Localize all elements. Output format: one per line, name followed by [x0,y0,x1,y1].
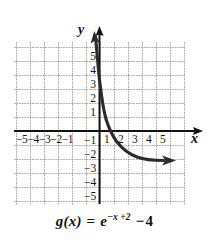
x-axis-positive-tick-labels: 12345 [104,133,174,145]
x-tick--4: −4 [27,133,38,145]
caption-function-name: g [56,213,64,229]
x-tick-2: 2 [118,133,132,145]
y-axis-negative-tick-labels: −1 −2 −3 −4 −5 [84,133,96,203]
x-axis-label: x [191,131,198,147]
y-tick-3: 3 [84,77,96,91]
x-tick--1: −1 [62,133,73,145]
x-tick--2: −2 [50,133,61,145]
function-curve [91,31,176,166]
exponential-function-figure: −5−4−3−2−1 12345 5 4 3 2 1 −1 −2 −3 −4 −… [0,0,209,240]
caption-variable: (x) [64,213,82,229]
y-tick-1: 1 [84,105,96,119]
y-tick--3: −3 [84,161,96,175]
x-tick-5: 5 [160,133,174,145]
function-caption: g(x) = e−x +2 −4 [0,212,209,230]
x-tick-1: 1 [104,133,118,145]
x-tick--3: −3 [39,133,50,145]
y-axis-label: y [78,22,84,38]
caption-minus: − [135,213,146,229]
caption-constant: 4 [145,213,153,229]
x-tick-4: 4 [146,133,160,145]
y-tick--5: −5 [84,189,96,203]
y-axis-positive-tick-labels: 5 4 3 2 1 [84,49,96,119]
y-tick--1: −1 [84,133,96,147]
y-tick--4: −4 [84,175,96,189]
y-tick--2: −2 [84,147,96,161]
y-tick-4: 4 [84,63,96,77]
caption-exponent: −x +2 [107,212,131,222]
axes-and-curve-overlay [0,0,209,240]
x-tick--5: −5 [16,133,27,145]
x-axis-negative-tick-labels: −5−4−3−2−1 [16,133,73,145]
caption-equals: = [86,213,97,229]
x-tick-3: 3 [132,133,146,145]
y-tick-2: 2 [84,91,96,105]
y-tick-5: 5 [84,49,96,63]
